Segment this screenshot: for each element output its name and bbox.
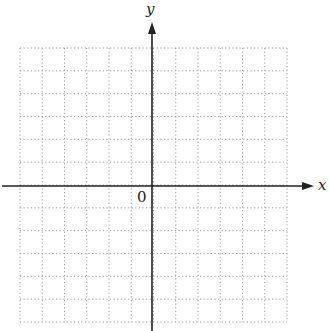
coordinate-plane	[0, 0, 329, 331]
x-axis-label: x	[318, 176, 326, 194]
y-axis-arrow-icon	[148, 22, 156, 34]
x-axis-arrow-icon	[302, 182, 314, 190]
y-axis-label: y	[146, 0, 154, 18]
origin-label: 0	[137, 188, 147, 206]
grid	[20, 48, 287, 322]
axes	[2, 22, 314, 331]
